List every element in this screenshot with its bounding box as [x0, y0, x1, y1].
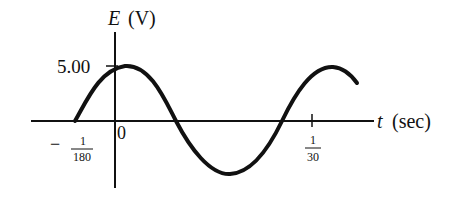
- x-tick-num-180: 1: [80, 134, 86, 148]
- y-axis-label-var: E: [107, 7, 120, 29]
- x-tick-minus-sign: −: [50, 134, 60, 154]
- x-tick-den-180: 180: [73, 150, 91, 164]
- y-axis-label-unit: (V): [128, 7, 156, 30]
- y-tick-label: 5.00: [57, 56, 90, 77]
- x-tick-den-30: 30: [307, 150, 319, 164]
- chart: E (V) t (sec) 5.00 − 1 180 0 1 30: [0, 0, 459, 201]
- x-axis-label-var: t: [377, 110, 383, 132]
- x-tick-num-30: 1: [310, 133, 316, 147]
- x-axis-label-unit: (sec): [392, 110, 431, 133]
- x-tick-zero: 0: [117, 123, 126, 143]
